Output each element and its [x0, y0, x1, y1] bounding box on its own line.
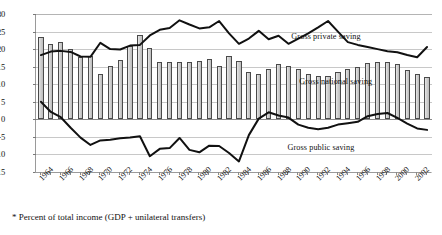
- line-gross-private-saving: [41, 20, 427, 57]
- y-tick-label-30: 30: [0, 10, 5, 19]
- y-tick-label-5: 5: [1, 98, 5, 107]
- y-tick-label--5: -5: [0, 133, 5, 142]
- series-label-gross-national-saving: Gross national saving: [299, 78, 372, 86]
- y-tick-label--10: -10: [0, 150, 5, 159]
- y-tick-label-10: 10: [0, 80, 5, 89]
- plot-area: [35, 14, 432, 172]
- y-tick-label-15: 15: [0, 62, 5, 71]
- line-series-layer: [36, 14, 432, 172]
- y-tick-label-20: 20: [0, 45, 5, 54]
- y-tick-label-0: 0: [1, 115, 5, 124]
- line-gross-public-saving: [41, 102, 427, 162]
- y-tick-label--15: -15: [0, 168, 5, 177]
- saving-rates-chart: 302520151050-5-10-15 1964196619681970197…: [0, 0, 442, 235]
- series-label-gross-private-saving: Gross private saving: [291, 33, 360, 41]
- y-tick-label-25: 25: [0, 27, 5, 36]
- series-label-gross-public-saving: Gross public saving: [287, 144, 354, 152]
- chart-footnote: * Percent of total income (GDP + unilate…: [12, 213, 205, 222]
